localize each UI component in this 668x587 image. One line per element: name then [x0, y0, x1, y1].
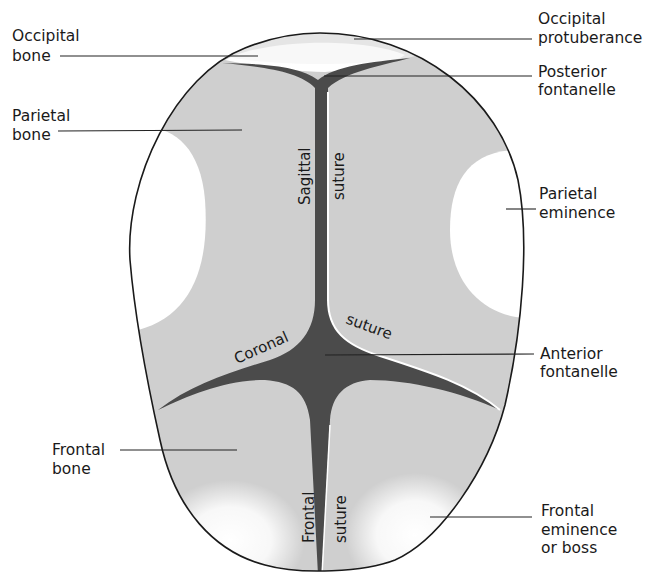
fetal-skull-diagram: Sagittal suture Coronal suture Frontal s…	[0, 0, 668, 587]
label-frontal-eminence: Frontal eminence or boss	[541, 502, 622, 557]
sagittal-suture-label: suture	[330, 152, 348, 200]
label-parietal-bone: Parietal bone	[12, 107, 75, 144]
label-anterior-fontanelle: Anterior fontanelle	[540, 345, 618, 381]
label-parietal-eminence: Parietal eminence	[539, 185, 615, 222]
sagittal-label: Sagittal	[296, 147, 314, 205]
frontal-label: Frontal	[300, 492, 318, 543]
frontal-suture-label: suture	[332, 495, 350, 543]
label-frontal-bone: Frontal bone	[52, 441, 110, 478]
label-occipital-bone: Occipital bone	[12, 27, 85, 65]
label-posterior-fontanelle: Posterior fontanelle	[538, 63, 616, 99]
label-occipital-protuberance: Occipital protuberance	[538, 10, 642, 47]
